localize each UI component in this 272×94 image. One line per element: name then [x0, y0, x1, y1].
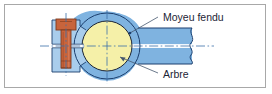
technical-drawing — [0, 0, 272, 94]
figure-root: Moyeu fendu Arbre — [0, 0, 272, 94]
label-arbre: Arbre — [163, 69, 189, 80]
label-moyeu-fendu: Moyeu fendu — [163, 12, 224, 23]
